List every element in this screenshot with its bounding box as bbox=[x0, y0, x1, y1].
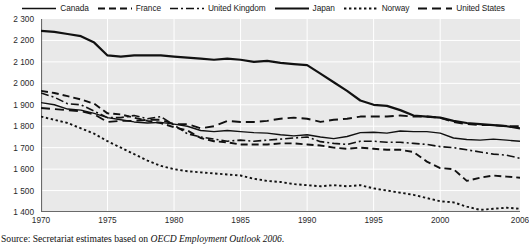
legend-label: Japan bbox=[313, 3, 335, 13]
y-tick-label: 1 500 bbox=[13, 186, 34, 196]
y-tick-label: 2 100 bbox=[13, 57, 34, 67]
x-axis: 19701975198019851990199520002006 bbox=[0, 213, 527, 229]
x-tick-label: 1970 bbox=[32, 215, 50, 225]
source-publication: OECD Employment Outlook 2006 bbox=[150, 233, 281, 244]
legend-label: United Kingdom bbox=[208, 3, 266, 13]
source-text-after: . bbox=[282, 233, 284, 244]
legend-label: France bbox=[136, 3, 161, 13]
x-tick-label: 1980 bbox=[165, 215, 183, 225]
legend-swatch-icon bbox=[418, 4, 452, 13]
y-tick-label: 2 000 bbox=[13, 78, 34, 88]
y-tick-label: 1 800 bbox=[13, 121, 34, 131]
series-canvas bbox=[41, 19, 520, 212]
series-line-norway bbox=[41, 117, 520, 210]
legend-item-united-kingdom: United Kingdom bbox=[170, 3, 266, 13]
x-tick-label: 1995 bbox=[364, 215, 382, 225]
y-tick-label: 1 900 bbox=[13, 100, 34, 110]
legend-item-norway: Norway bbox=[344, 3, 410, 13]
chart-legend: CanadaFranceUnited KingdomJapanNorwayUni… bbox=[0, 0, 527, 16]
legend-item-united-states: United States bbox=[418, 3, 505, 13]
series-line-united-kingdom bbox=[41, 93, 520, 158]
x-tick-label: 1990 bbox=[298, 215, 316, 225]
legend-item-france: France bbox=[98, 3, 161, 13]
plot-area bbox=[41, 19, 520, 212]
y-axis: 1 4001 5001 6001 7001 8001 9002 0002 100… bbox=[0, 12, 38, 220]
legend-label: United States bbox=[456, 3, 505, 13]
x-tick-label: 1975 bbox=[98, 215, 116, 225]
source-text-before: Secretariat estimates based on bbox=[30, 233, 150, 244]
x-tick-label: 1985 bbox=[231, 215, 249, 225]
x-tick-label: 2000 bbox=[431, 215, 449, 225]
legend-item-japan: Japan bbox=[275, 3, 335, 13]
y-tick-label: 1 600 bbox=[13, 164, 34, 174]
y-tick-label: 1 700 bbox=[13, 143, 34, 153]
source-note: Source: Secretariat estimates based on O… bbox=[1, 233, 526, 244]
source-prefix: Source: bbox=[1, 233, 30, 244]
legend-label: Norway bbox=[382, 3, 410, 13]
legend-swatch-icon bbox=[275, 4, 309, 13]
legend-swatch-icon bbox=[344, 4, 378, 13]
legend-swatch-icon bbox=[170, 4, 204, 13]
y-tick-label: 2 200 bbox=[13, 35, 34, 45]
legend-label: Canada bbox=[60, 3, 88, 13]
y-tick-label: 2 300 bbox=[13, 14, 34, 24]
x-tick-label: 2006 bbox=[511, 215, 529, 225]
legend-swatch-icon bbox=[98, 4, 132, 13]
series-line-japan bbox=[41, 31, 520, 129]
